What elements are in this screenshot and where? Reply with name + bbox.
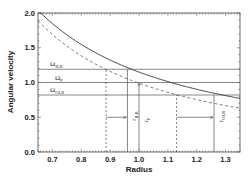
y-tick-label: 1.5	[25, 43, 35, 52]
y-tick-label: 0.0	[25, 148, 35, 157]
guide-lines	[38, 69, 240, 152]
x-tick-label: 1.2	[191, 155, 201, 164]
x-tick-label: 0.9	[105, 155, 115, 164]
angular-velocity-chart: 0.70.80.91.01.11.21.30.00.51.01.52.0 ΩIL…	[0, 0, 252, 177]
solid-curve	[39, 13, 240, 98]
x-tick-label: 0.8	[76, 155, 86, 164]
x-tick-label: 0.7	[47, 155, 57, 164]
omega-ilr-label: ΩILR	[50, 60, 62, 69]
r-olr-label: rOLR	[217, 111, 226, 122]
x-axis-label: Radius	[126, 165, 153, 174]
r-ilr-label: rILR	[130, 111, 139, 121]
x-tick-label: 1.3	[220, 155, 230, 164]
r-p-label: rp	[142, 117, 151, 122]
x-tick-label: 1.1	[163, 155, 173, 164]
y-tick-label: 2.0	[25, 9, 35, 18]
omega-olr-label: ΩOLR	[50, 86, 64, 95]
y-tick-label: 0.5	[25, 113, 35, 122]
omega-p-label: Ωp	[55, 74, 63, 83]
y-tick-label: 1.0	[25, 78, 35, 87]
axis-ticks: 0.70.80.91.01.11.21.30.00.51.01.52.0	[25, 9, 240, 165]
y-axis-label: Angular velocity	[6, 50, 15, 113]
x-tick-label: 1.0	[134, 155, 144, 164]
